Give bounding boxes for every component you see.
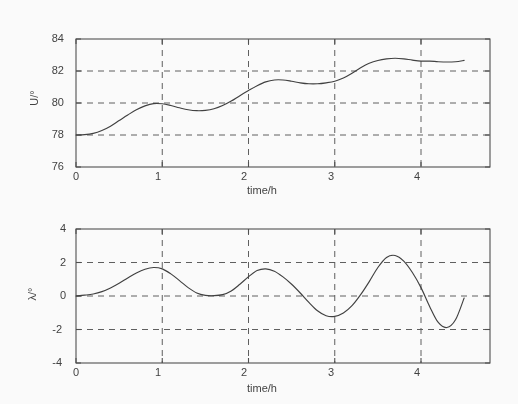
data-series-lambda xyxy=(76,255,464,327)
chart-panel-bottom: λ/° 4 2 0 -2 -4 0 1 2 3 4 time/h xyxy=(0,200,518,404)
axis-frame xyxy=(76,39,490,167)
chart-panel-top: U/° 84 82 80 78 76 0 1 2 3 4 time/h xyxy=(0,0,518,200)
figure-two-line-charts: U/° 84 82 80 78 76 0 1 2 3 4 time/h λ/° … xyxy=(0,0,518,404)
plot-area-bottom xyxy=(0,200,518,404)
data-series-U xyxy=(76,58,464,135)
axis-frame xyxy=(76,229,490,363)
plot-area-top xyxy=(0,0,518,200)
